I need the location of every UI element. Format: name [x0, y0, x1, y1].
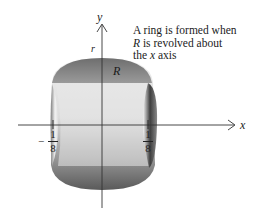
ring-diagram: A ring is formed when R is revolved abou…: [0, 0, 261, 218]
right-tick-denominator: 8: [145, 142, 151, 154]
radius-label: r: [91, 43, 95, 54]
left-tick-sign: −: [38, 135, 44, 147]
x-axis-label: x: [240, 118, 245, 133]
right-tick-fraction: 1 8: [143, 129, 153, 154]
figure-caption: A ring is formed when R is revolved abou…: [133, 24, 258, 62]
left-tick-fraction: 1 8: [48, 129, 58, 154]
left-tick-denominator: 8: [50, 142, 56, 154]
y-axis-label: y: [97, 10, 102, 25]
right-tick-numerator: 1: [145, 128, 151, 140]
region-label: R: [113, 64, 120, 79]
left-tick-numerator: 1: [50, 128, 56, 140]
